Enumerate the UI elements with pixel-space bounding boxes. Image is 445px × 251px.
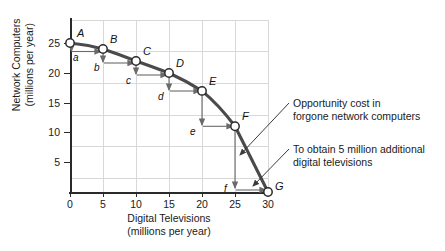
data-point-C bbox=[132, 57, 140, 65]
data-point-label-F: F bbox=[242, 111, 249, 122]
step-label-d: d bbox=[158, 92, 164, 102]
chart-figure: 25 20 15 10 5 0 5 10 15 20 25 30 Network… bbox=[0, 0, 445, 251]
data-point-label-E: E bbox=[209, 76, 216, 87]
chart-graphics bbox=[0, 0, 445, 251]
data-point-F bbox=[231, 122, 239, 130]
annotation-obtain-additional: To obtain 5 million additional digital t… bbox=[293, 143, 425, 170]
data-point-label-G: G bbox=[275, 181, 284, 192]
step-label-a: a bbox=[73, 53, 79, 63]
step-label-f: f bbox=[224, 184, 227, 194]
annotation-opportunity-cost: Opportunity cost in forgone network comp… bbox=[293, 97, 420, 124]
data-point-B bbox=[99, 45, 107, 53]
data-point-label-C: C bbox=[143, 46, 151, 57]
data-point-label-B: B bbox=[110, 34, 117, 45]
data-point-D bbox=[165, 69, 173, 77]
step-label-c: c bbox=[126, 76, 131, 86]
annotation-opportunity-cost-line2: forgone network computers bbox=[293, 110, 420, 123]
data-point-label-D: D bbox=[176, 58, 184, 69]
data-point-E bbox=[198, 87, 206, 95]
data-point-G bbox=[264, 188, 272, 196]
step-label-e: e bbox=[190, 127, 196, 137]
annotation-obtain-additional-line1: To obtain 5 million additional bbox=[293, 143, 425, 156]
annotation-obtain-additional-line2: digital televisions bbox=[293, 156, 425, 169]
annotation-opportunity-cost-line1: Opportunity cost in bbox=[293, 97, 420, 110]
data-point-label-A: A bbox=[77, 28, 84, 39]
data-point-A bbox=[66, 39, 74, 47]
step-label-b: b bbox=[94, 63, 100, 73]
